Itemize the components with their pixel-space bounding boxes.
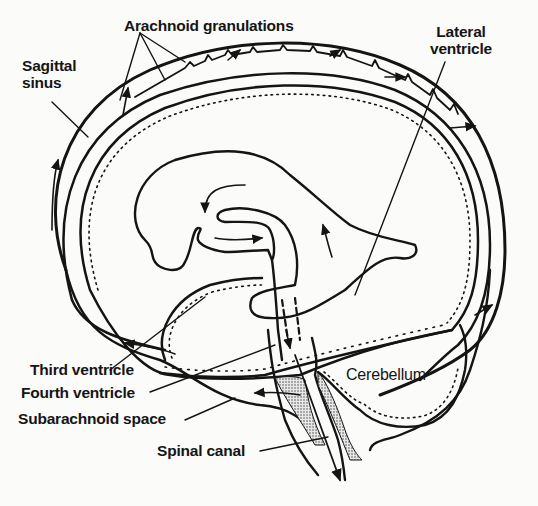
label-subarachnoid-space: Subarachnoid space [18, 410, 166, 427]
subarachnoid-floor-inner [72, 300, 165, 350]
label-sagittal-sinus: Sagittal sinus [22, 57, 76, 91]
flow-arrow-granulation-5 [450, 126, 475, 128]
label-spinal-canal: Spinal canal [157, 442, 245, 459]
label-sagittal-sinus-line1: Sagittal [22, 57, 76, 74]
label-cerebellum: Cerebellum [346, 366, 426, 383]
temporal-lobe-ticks [169, 285, 262, 358]
label-third-ventricle: Third ventricle [30, 361, 134, 378]
csf-circulation-diagram [0, 0, 538, 506]
flow-arrow-ventricle-2 [215, 238, 262, 240]
label-fourth-ventricle: Fourth ventricle [21, 384, 135, 401]
flow-arrow-lateral [323, 225, 332, 257]
label-lateral-ventricle: Lateral ventricle [430, 23, 492, 57]
label-arachnoid-granulations: Arachnoid granulations [124, 17, 294, 34]
aqueduct [282, 298, 300, 340]
arachnoid-granulations-edge [135, 45, 458, 114]
label-lateral-ventricle-line2: ventricle [430, 40, 492, 57]
label-sagittal-sinus-line2: sinus [22, 74, 76, 91]
label-lateral-ventricle-line1: Lateral [430, 23, 492, 40]
flow-arrow-posterior [475, 305, 492, 315]
